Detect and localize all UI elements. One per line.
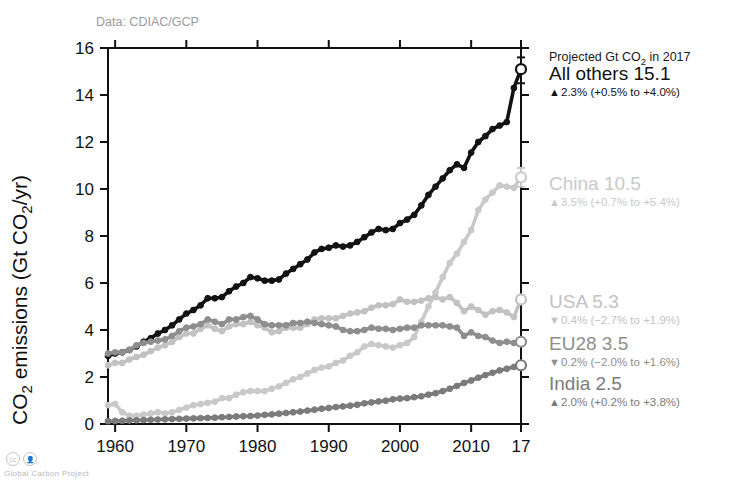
data-point (418, 322, 424, 328)
data-point (212, 319, 218, 325)
data-point (169, 333, 175, 339)
data-point (361, 234, 367, 240)
data-point (126, 356, 132, 362)
y-tick-label: 12 (75, 133, 94, 152)
data-point (162, 327, 168, 333)
data-point (418, 298, 424, 304)
data-point (397, 297, 403, 303)
data-point (333, 324, 339, 330)
data-point (141, 417, 147, 423)
data-point (468, 227, 474, 233)
legend-header-tail: in 2017 (646, 50, 691, 64)
data-point (269, 386, 275, 392)
x-tick-label: 1960 (96, 437, 134, 456)
data-point (205, 322, 211, 328)
data-point (347, 403, 353, 409)
data-point (440, 388, 446, 394)
data-point (240, 280, 246, 286)
trend-up-arrow-icon: ▲ (549, 396, 560, 408)
data-point (155, 417, 161, 423)
data-point (219, 321, 225, 327)
data-point (511, 314, 517, 320)
data-point (347, 243, 353, 249)
data-point (369, 230, 375, 236)
data-point (248, 388, 254, 394)
data-point (404, 395, 410, 401)
data-point (504, 366, 510, 372)
data-point (212, 295, 218, 301)
data-point (212, 399, 218, 405)
data-point (290, 320, 296, 326)
x-tick-label: 1990 (310, 437, 348, 456)
data-point (290, 409, 296, 415)
data-point (176, 328, 182, 334)
trend-down-arrow-icon: ▼ (549, 356, 560, 368)
creative-commons-glyph: cc (10, 456, 18, 463)
y-tick-label: 8 (85, 227, 94, 246)
data-point (397, 220, 403, 226)
data-point (333, 243, 339, 249)
data-point (326, 315, 332, 321)
data-point (411, 325, 417, 331)
data-point (248, 413, 254, 419)
data-point (433, 294, 439, 300)
legend-series-label: India 2.5 (549, 373, 622, 394)
data-point (297, 374, 303, 380)
data-point (276, 277, 282, 283)
data-point (312, 367, 318, 373)
data-point (276, 384, 282, 390)
data-point (269, 329, 275, 335)
data-point (283, 322, 289, 328)
data-point (176, 317, 182, 323)
data-point (255, 275, 261, 281)
data-point (376, 342, 382, 348)
data-point (240, 321, 246, 327)
data-point (212, 415, 218, 421)
data-point (411, 334, 417, 340)
data-point (105, 362, 111, 368)
data-point (169, 339, 175, 345)
data-point (397, 342, 403, 348)
data-point (269, 278, 275, 284)
data-point (475, 139, 481, 145)
data-point (475, 333, 481, 339)
data-point (490, 126, 496, 132)
data-point (397, 396, 403, 402)
data-point (390, 226, 396, 232)
data-point (376, 326, 382, 332)
data-point (319, 406, 325, 412)
data-point (490, 370, 496, 376)
data-point (497, 368, 503, 374)
data-point (361, 308, 367, 314)
data-point (304, 371, 310, 377)
data-point (369, 341, 375, 347)
data-point (404, 340, 410, 346)
data-point (205, 400, 211, 406)
data-point (191, 402, 197, 408)
data-point (248, 274, 254, 280)
data-point (354, 328, 360, 334)
data-point (426, 322, 432, 328)
data-point (255, 388, 261, 394)
legend-item-all-others[interactable]: All others 15.1▲2.3% (+0.5% to +4.0%) (549, 63, 680, 98)
data-point (240, 413, 246, 419)
data-point (369, 305, 375, 311)
data-point (297, 409, 303, 415)
data-point (426, 392, 432, 398)
data-point (426, 304, 432, 310)
legend-series-label: EU28 3.5 (549, 333, 628, 354)
x-tick-label: 1970 (167, 437, 205, 456)
legend-trend-text: 2.0% (+0.2% to +3.8%) (561, 396, 680, 408)
data-point (347, 328, 353, 334)
data-point (119, 418, 125, 424)
data-point (433, 390, 439, 396)
data-point (390, 301, 396, 307)
data-point (404, 299, 410, 305)
data-point (354, 239, 360, 245)
data-point (411, 212, 417, 218)
legend-trend-text: 2.3% (+0.5% to +4.0%) (561, 86, 680, 98)
trend-up-arrow-icon: ▲ (549, 86, 560, 98)
data-point (440, 297, 446, 303)
data-point (105, 402, 111, 408)
data-point (134, 417, 140, 423)
